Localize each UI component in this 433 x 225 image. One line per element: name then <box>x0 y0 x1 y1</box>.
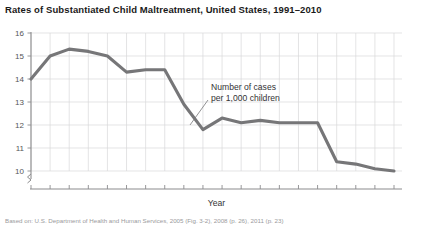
svg-text:14: 14 <box>15 75 24 84</box>
svg-text:12: 12 <box>15 121 24 130</box>
x-tick-labels: 19911995200020052010 <box>22 193 403 194</box>
chart-title: Rates of Substantiated Child Maltreatmen… <box>5 4 322 15</box>
svg-text:1995: 1995 <box>99 193 117 194</box>
svg-text:10: 10 <box>15 167 24 176</box>
svg-text:16: 16 <box>15 29 24 38</box>
data-line-series <box>31 49 394 171</box>
chart-plot-area: 10111213141516 19911995200020052010 Numb… <box>0 26 433 194</box>
svg-text:2000: 2000 <box>194 193 212 194</box>
x-axis-title: Year <box>0 198 433 208</box>
y-tick-labels: 10111213141516 <box>15 29 24 176</box>
svg-text:1991: 1991 <box>22 193 40 194</box>
annotation-label-line2: per 1,000 children <box>211 93 280 103</box>
y-axis <box>28 32 32 183</box>
svg-text:2005: 2005 <box>290 193 308 194</box>
svg-text:13: 13 <box>15 98 24 107</box>
x-axis <box>30 185 402 189</box>
svg-text:2010: 2010 <box>385 193 403 194</box>
svg-text:15: 15 <box>15 52 24 61</box>
svg-text:11: 11 <box>16 144 25 153</box>
source-note: Based on: U.S. Department of Health and … <box>5 217 283 224</box>
annotation-leader-line <box>190 100 208 125</box>
annotation-label-line1: Number of cases <box>211 82 276 92</box>
chart-svg: 10111213141516 19911995200020052010 Numb… <box>0 26 433 194</box>
